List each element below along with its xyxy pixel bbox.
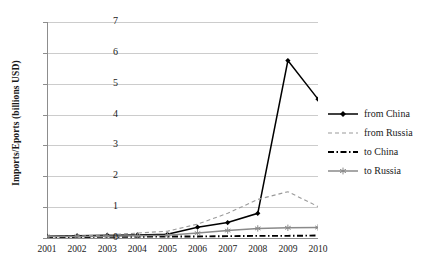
series-line-from-china — [47, 61, 318, 237]
legend-label: to China — [359, 146, 398, 157]
y-tick-mark-0 — [43, 238, 47, 239]
y-tick-label-7: 7 — [94, 16, 118, 26]
data-point-marker — [195, 225, 200, 230]
gridline-0 — [47, 238, 318, 239]
line-chart-figure: Imports/Eports (billions USD) 01234567 2… — [0, 0, 443, 274]
legend-swatch-icon — [327, 145, 359, 159]
y-tick-label-6: 6 — [94, 47, 118, 57]
legend-label: from Russia — [359, 127, 413, 138]
x-tick-label-2010: 2010 — [296, 244, 340, 254]
y-tick-label-0: 0 — [94, 232, 118, 242]
legend-item-to-china[interactable]: to China — [327, 142, 439, 161]
data-point-marker — [255, 211, 260, 216]
legend-item-to-russia[interactable]: to Russia — [327, 161, 439, 180]
series-layer — [47, 22, 318, 238]
y-tick-label-5: 5 — [94, 78, 118, 88]
data-point-marker — [225, 220, 230, 225]
legend-item-from-russia[interactable]: from Russia — [327, 123, 439, 142]
y-tick-label-4: 4 — [94, 109, 118, 119]
chart-legend: from Chinafrom Russiato Chinato Russia — [327, 104, 439, 180]
data-point-marker — [74, 233, 80, 238]
y-tick-label-1: 1 — [94, 201, 118, 211]
plot-area — [47, 22, 318, 238]
data-point-marker — [47, 233, 50, 238]
legend-swatch-icon — [327, 107, 359, 121]
legend-swatch-icon — [327, 126, 359, 140]
y-axis-title: Imports/Eports (billions USD) — [11, 23, 21, 223]
legend-item-from-china[interactable]: from China — [327, 104, 439, 123]
y-tick-label-3: 3 — [94, 139, 118, 149]
legend-swatch-icon — [327, 164, 359, 178]
legend-label: from China — [359, 108, 410, 119]
y-tick-label-2: 2 — [94, 170, 118, 180]
legend-label: to Russia — [359, 165, 401, 176]
